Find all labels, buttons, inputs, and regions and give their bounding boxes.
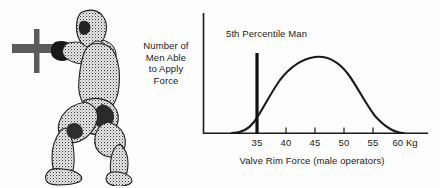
y-caption-line-4: Force (128, 75, 204, 87)
x-tick-label-55: 55 (368, 137, 379, 148)
x-axis-caption: Valve Rim Force (male operators) (196, 155, 428, 166)
front-foot (46, 169, 82, 185)
kneeling-operator-illustration (8, 4, 136, 186)
x-tick-labels: 35 40 45 50 55 60 Kg (196, 137, 440, 151)
y-caption-line-2: Men Able (128, 52, 204, 64)
rear-foot (106, 172, 132, 186)
fifth-percentile-label: 5th Percentile Man (226, 28, 307, 39)
x-tick-label-40: 40 (281, 137, 292, 148)
x-axis-ticks (257, 128, 373, 134)
x-tick-label-35: 35 (252, 137, 263, 148)
y-caption-line-1: Number of (128, 40, 204, 52)
figure-root: Number of Men Able to Apply Force (0, 0, 440, 188)
distribution-chart: 5th Percentile Man 35 40 45 50 55 60 Kg … (196, 6, 440, 188)
x-tick-label-60: 60 Kg (392, 137, 417, 148)
x-tick-label-50: 50 (339, 137, 350, 148)
x-tick-label-45: 45 (310, 137, 321, 148)
y-axis-caption: Number of Men Able to Apply Force (128, 40, 204, 86)
y-caption-line-3: to Apply (128, 63, 204, 75)
operator-figure-svg (8, 4, 136, 186)
